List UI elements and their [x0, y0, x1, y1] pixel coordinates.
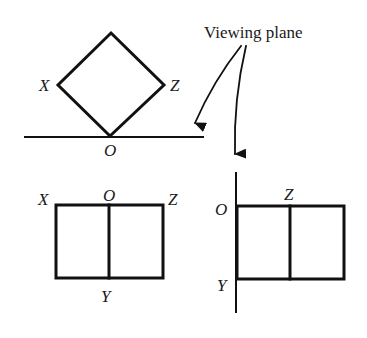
- side-label-o: O: [215, 200, 227, 219]
- diamond-shape: [58, 33, 164, 136]
- front-label-y: Y: [101, 287, 112, 306]
- front-label-o: O: [103, 186, 115, 205]
- top-view: X Z O: [25, 33, 203, 160]
- side-label-y: Y: [217, 276, 228, 295]
- arrow-to-side-plane: [235, 46, 246, 154]
- top-label-o: O: [104, 141, 116, 160]
- front-label-z: Z: [168, 190, 178, 209]
- side-label-z: Z: [284, 185, 294, 204]
- top-label-z: Z: [170, 76, 180, 95]
- arrow-to-top-plane: [195, 46, 241, 123]
- viewing-plane-callout: Viewing plane: [195, 23, 303, 154]
- viewing-plane-caption: Viewing plane: [204, 23, 303, 42]
- front-label-x: X: [37, 190, 49, 209]
- front-view: X O Z Y: [37, 186, 178, 306]
- side-view: O Z Y: [215, 173, 344, 312]
- top-label-x: X: [38, 76, 50, 95]
- viewing-plane-diagram: X Z O Viewing plane X O Z Y O Z Y: [0, 0, 367, 338]
